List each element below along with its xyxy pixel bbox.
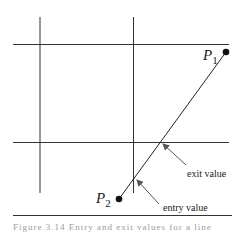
entry-value-arrow [137,180,159,204]
point-p1-dot [223,49,230,56]
point-p1-label: P1 [202,47,218,66]
exit-value-arrow [163,144,186,165]
point-p2-dot [116,196,123,203]
line-clipping-diagram: P1 P2 exit value entry value [0,0,242,234]
figure-caption: Figure 3.14 Entry and exit values for a … [13,222,229,232]
point-p2-label: P2 [95,190,111,209]
entry-value-label: entry value [163,202,208,213]
exit-value-label: exit value [187,168,227,179]
